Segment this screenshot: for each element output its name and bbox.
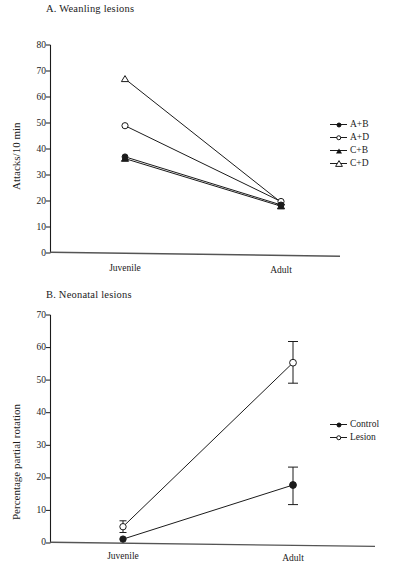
panel-a-xtick-adult: Adult [246,265,316,275]
panel-a-weanling-lesions: A. Weanling lesions Attacks/10 min 80 70… [0,0,394,287]
panel-a-series-cd [125,79,281,202]
panel-a-legend-label-cb: C+B [349,144,368,157]
panel-b-legend-item-control[interactable]: Control [330,418,379,431]
panel-a-point-cd-juvenile [121,76,128,82]
panel-b-neonatal-lesions: B. Neonatal lesions Percentage partial r… [0,285,394,573]
filled-triangle-icon [330,145,347,157]
panel-a-series-cb [125,159,281,207]
panel-a-point-ad-juvenile [122,123,128,129]
filled-circle-icon [330,419,347,431]
panel-a-legend-item-cd[interactable]: C+D [330,157,369,170]
panel-b-x-axis-line [50,542,375,546]
panel-b-xtick-adult: Adult [258,553,328,563]
panel-b-point-control-adult [290,482,297,489]
filled-circle-icon [330,119,347,131]
figure-root: A. Weanling lesions Attacks/10 min 80 70… [0,0,394,573]
panel-a-legend-item-ab[interactable]: A+B [330,118,369,131]
open-circle-icon [330,132,347,144]
panel-a-legend-item-ad[interactable]: A+D [330,131,369,144]
panel-a-point-ab-juvenile [122,154,128,160]
panel-a-legend-label-cd: C+D [349,157,369,170]
panel-a-legend: A+B A+D C+B C+D [330,118,369,170]
panel-b-legend-label-lesion: Lesion [349,431,376,444]
panel-b-point-lesion-adult [290,359,297,366]
panel-a-y-ticks [46,45,51,253]
panel-a-legend-item-cb[interactable]: C+B [330,144,369,157]
open-triangle-icon [330,158,347,170]
panel-b-y-ticks [46,315,51,543]
panel-a-x-axis-line [50,252,340,256]
panel-a-legend-label-ab: A+B [349,118,369,131]
panel-b-point-lesion-juvenile [120,524,126,530]
panel-b-xtick-juvenile: Juvenile [88,551,158,561]
panel-b-legend-item-lesion[interactable]: Lesion [330,431,379,444]
panel-a-legend-label-ad: A+D [349,131,369,144]
panel-b-legend: Control Lesion [330,418,379,444]
panel-b-series-control [123,485,293,539]
panel-b-point-control-juvenile [120,536,126,542]
panel-a-xtick-juvenile: Juvenile [90,263,160,273]
panel-b-series-lesion [123,363,293,527]
panel-b-legend-label-control: Control [349,418,379,431]
open-circle-icon [330,432,347,444]
panel-a-point-ab-adult [278,202,284,208]
